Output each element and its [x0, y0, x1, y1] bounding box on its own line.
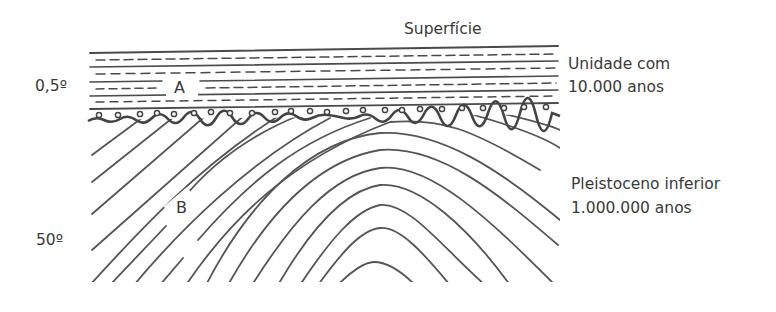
- dip-angle-a-label: 0,5º: [35, 79, 67, 95]
- layer-b-label: B: [176, 200, 187, 216]
- dip-angle-b-label: 50º: [36, 233, 63, 249]
- cross-section-drawing: [0, 0, 776, 312]
- unit-a-age-label-line1: Unidade com: [568, 57, 670, 73]
- unit-b-age-label-line1: Pleistoceno inferior: [571, 177, 720, 193]
- unconformity-line: [88, 98, 560, 131]
- surface-label: Superfície: [404, 22, 482, 38]
- layer-a-label: A: [174, 80, 185, 96]
- layer-a-strata: [90, 46, 558, 109]
- unit-b-age-label-line2: 1.000.000 anos: [571, 201, 692, 217]
- unit-a-age-label-line2: 10.000 anos: [568, 80, 664, 96]
- layer-b-folded-strata: [90, 112, 560, 285]
